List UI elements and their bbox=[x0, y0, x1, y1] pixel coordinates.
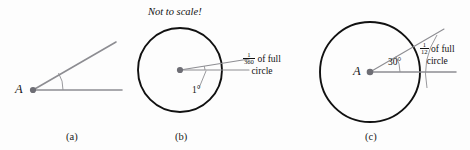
panel-b-angle-label: 1° bbox=[192, 86, 201, 96]
panel-c-fraction-denominator: 12 bbox=[420, 48, 429, 56]
panel-b-fraction: 1 360 bbox=[243, 52, 255, 66]
panel-c-drawing bbox=[320, 22, 456, 122]
panel-a-angled-ray bbox=[33, 42, 116, 90]
panel-c-caption: (c) bbox=[365, 132, 377, 143]
panel-c-center-dot bbox=[367, 69, 374, 76]
panel-b-center-dot bbox=[177, 67, 183, 73]
panel-b-ray-upper bbox=[180, 59, 249, 70]
panel-c-angle-label: 30° bbox=[388, 58, 401, 68]
figure-container: A Not to scale! 1° 1 360 of full circle … bbox=[0, 0, 470, 150]
panel-c-fraction-callout: 1 12 of full circle bbox=[420, 42, 455, 68]
panel-b-fraction-denominator: 360 bbox=[243, 58, 255, 66]
panel-b-callout-line1: of full bbox=[257, 54, 280, 65]
panel-c-callout-line1: of full bbox=[431, 44, 454, 55]
panel-b-caption: (b) bbox=[175, 132, 187, 143]
panel-c-fraction: 1 12 bbox=[420, 42, 429, 56]
panel-b-angle-arc bbox=[204, 66, 205, 70]
panel-b-callout-line2: circle bbox=[243, 66, 281, 77]
panel-c-callout-line2: circle bbox=[420, 56, 455, 67]
panel-a-caption: (a) bbox=[66, 132, 78, 143]
panel-c-vertex-label: A bbox=[353, 65, 361, 78]
panel-a-drawing bbox=[30, 42, 122, 93]
panel-c-fraction-numerator: 1 bbox=[422, 42, 427, 49]
figure-drawing-canvas bbox=[0, 0, 470, 150]
panel-a-vertex-label: A bbox=[15, 83, 23, 96]
panel-a-vertex-dot bbox=[30, 87, 36, 93]
panel-b-fraction-numerator: 1 bbox=[246, 52, 251, 59]
panel-b-not-to-scale-note: Not to scale! bbox=[148, 7, 202, 18]
panel-b-fraction-callout: 1 360 of full circle bbox=[243, 52, 281, 78]
panel-b-drawing bbox=[138, 28, 249, 112]
